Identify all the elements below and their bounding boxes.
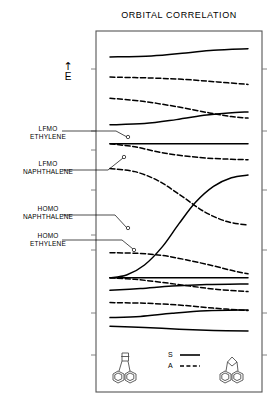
correlation-curve-level-1-top-symmetric [110, 49, 248, 57]
label-anchor-markers [122, 135, 135, 251]
correlation-curves [110, 49, 248, 331]
correlation-curve-level-4-symmetric [110, 112, 248, 125]
correlation-curve-homo-naphthalene-antisymmetric [110, 253, 248, 274]
correlation-curve-level-2-antisymmetric [110, 77, 248, 84]
plot-frame [96, 31, 262, 392]
axis-ticks-left [91, 69, 96, 355]
right-molecule-icon [220, 357, 243, 383]
correlation-curve-level-lower-3-symmetric [110, 310, 248, 318]
left-molecule-icon [113, 353, 136, 383]
correlation-curve-correlating-symmetric-rising [110, 175, 248, 278]
correlation-diagram-svg [0, 0, 276, 407]
label-leader-lines [62, 131, 133, 249]
correlation-curve-lfmo-naphthalene-antisymmetric [110, 169, 248, 226]
orbital-correlation-figure: ORBITAL CORRELATION ↑ E LFMO ETHYLENE LF… [0, 0, 276, 407]
correlation-curve-lfmo-ethylene-antisymmetric [110, 144, 248, 160]
correlation-curve-level-lower-4-symmetric [110, 326, 248, 331]
axis-ticks-right [262, 69, 267, 355]
correlation-curve-level-3-antisymmetric [110, 98, 248, 118]
correlation-curve-level-lower-2-antisymmetric [110, 303, 248, 311]
